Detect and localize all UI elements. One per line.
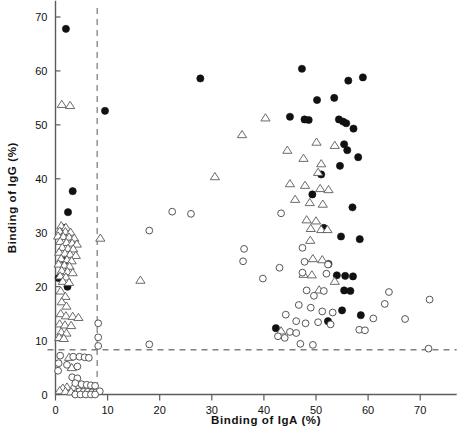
series-open-circle bbox=[55, 208, 433, 398]
data-point-open bbox=[282, 311, 289, 318]
data-point-triangle bbox=[237, 130, 246, 137]
data-point-filled bbox=[343, 120, 350, 127]
data-point-open bbox=[299, 269, 306, 276]
data-point-open bbox=[276, 264, 283, 271]
y-axis-title: Binding of IgG (%) bbox=[6, 142, 18, 253]
x-axis-tick-label: 60 bbox=[362, 404, 374, 416]
y-axis-tick-label: 20 bbox=[35, 281, 47, 293]
data-point-triangle bbox=[261, 114, 270, 121]
data-point-triangle bbox=[283, 146, 292, 153]
data-point-open bbox=[146, 341, 153, 348]
data-point-open bbox=[320, 288, 327, 295]
data-point-open bbox=[325, 261, 332, 268]
data-point-open bbox=[302, 320, 309, 327]
data-point-triangle bbox=[305, 198, 314, 205]
data-point-filled bbox=[69, 188, 76, 195]
data-point-triangle bbox=[316, 184, 325, 191]
data-point-open bbox=[381, 301, 388, 308]
y-axis-tick-label: 0 bbox=[41, 389, 47, 401]
x-axis-tick-label: 10 bbox=[101, 404, 113, 416]
data-point-triangle bbox=[307, 271, 316, 278]
data-point-open bbox=[146, 227, 153, 234]
reference-line-layer bbox=[48, 8, 457, 393]
data-point-open bbox=[315, 319, 322, 326]
data-point-triangle bbox=[308, 255, 317, 262]
data-point-filled bbox=[298, 65, 305, 72]
data-point-filled bbox=[331, 94, 338, 101]
data-point-filled bbox=[345, 77, 352, 84]
data-point-open bbox=[329, 309, 336, 316]
data-point-open bbox=[299, 244, 306, 251]
data-point-triangle bbox=[318, 200, 327, 207]
data-point-open bbox=[55, 360, 62, 367]
scatter-plot-figure: 010203040506070010203040506070Binding of… bbox=[0, 0, 474, 434]
data-point-triangle bbox=[312, 138, 321, 145]
data-point-filled bbox=[197, 75, 204, 82]
data-point-filled bbox=[338, 307, 345, 314]
data-point-triangle bbox=[210, 173, 219, 180]
data-point-filled bbox=[313, 96, 320, 103]
data-point-filled bbox=[344, 147, 351, 154]
data-point-filled bbox=[356, 236, 363, 243]
data-point-open bbox=[57, 352, 64, 359]
x-axis-tick-label: 70 bbox=[414, 404, 426, 416]
data-point-open bbox=[301, 258, 308, 265]
data-point-filled bbox=[347, 287, 354, 294]
y-axis-tick-label: 10 bbox=[35, 335, 47, 347]
data-point-triangle bbox=[285, 180, 294, 187]
data-point-filled bbox=[357, 312, 364, 319]
x-axis-title: Binding of IgA (%) bbox=[211, 414, 321, 426]
data-point-triangle bbox=[65, 101, 74, 108]
data-point-open bbox=[309, 341, 316, 348]
data-point-open bbox=[74, 363, 81, 370]
data-point-triangle bbox=[302, 216, 311, 223]
data-point-open bbox=[323, 270, 330, 277]
y-axis-tick-label: 60 bbox=[35, 65, 47, 77]
data-point-filled bbox=[286, 113, 293, 120]
data-point-open bbox=[95, 320, 102, 327]
data-point-filled bbox=[349, 204, 356, 211]
data-point-filled bbox=[305, 116, 312, 123]
data-point-triangle bbox=[136, 276, 145, 283]
data-point-open bbox=[92, 391, 99, 398]
data-point-triangle bbox=[96, 234, 105, 241]
axis-layer bbox=[56, 1, 457, 401]
data-point-open bbox=[188, 210, 195, 217]
data-point-open bbox=[259, 275, 266, 282]
data-point-triangle bbox=[300, 181, 309, 188]
data-point-open bbox=[307, 304, 314, 311]
data-point-open bbox=[281, 334, 288, 341]
data-point-open bbox=[370, 315, 377, 322]
data-point-filled bbox=[337, 233, 344, 240]
data-point-open bbox=[241, 245, 248, 252]
data-point-open bbox=[319, 308, 326, 315]
data-point-open bbox=[311, 292, 318, 299]
data-point-filled bbox=[359, 74, 366, 81]
series-open-triangle bbox=[54, 100, 340, 395]
data-point-triangle bbox=[299, 154, 308, 161]
data-point-open bbox=[64, 361, 71, 368]
data-point-open bbox=[55, 367, 62, 374]
y-axis-tick-label: 30 bbox=[35, 227, 47, 239]
data-point-open bbox=[169, 208, 176, 215]
data-point-triangle bbox=[306, 224, 315, 231]
data-point-triangle bbox=[324, 185, 333, 192]
data-point-open bbox=[95, 343, 102, 350]
data-point-open bbox=[293, 318, 300, 325]
data-point-open bbox=[402, 316, 409, 323]
data-point-filled bbox=[350, 125, 357, 132]
x-axis-tick-label: 20 bbox=[154, 404, 166, 416]
data-point-open bbox=[85, 354, 92, 361]
data-point-open bbox=[426, 296, 433, 303]
data-point-triangle bbox=[306, 236, 315, 243]
data-point-filled bbox=[355, 154, 362, 161]
x-axis-tick-label: 0 bbox=[52, 404, 58, 416]
data-point-filled bbox=[349, 273, 356, 280]
data-point-open bbox=[425, 345, 432, 352]
data-point-open bbox=[362, 327, 369, 334]
data-point-open bbox=[297, 340, 304, 347]
data-point-layer bbox=[54, 25, 433, 398]
data-point-triangle bbox=[330, 141, 339, 148]
y-axis-tick-label: 50 bbox=[35, 119, 47, 131]
scatter-plot-svg: 010203040506070010203040506070Binding of… bbox=[0, 0, 474, 434]
